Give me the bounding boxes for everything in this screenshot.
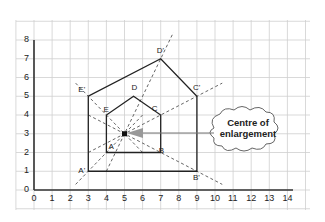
x-tick-label: 5 [122, 194, 127, 203]
x-tick-label: 2 [68, 194, 73, 203]
vertex-label: B' [193, 174, 200, 182]
x-tick-label: 8 [176, 194, 181, 203]
vertex-label: D [132, 84, 138, 92]
callout-text: Centre of enlargement [212, 118, 284, 140]
x-tick-label: 13 [264, 194, 274, 203]
x-tick-label: 3 [86, 194, 91, 203]
vertex-label: A [108, 143, 113, 151]
y-tick-label: 5 [24, 91, 29, 100]
y-tick-label: 2 [24, 148, 29, 157]
y-tick-label: 8 [24, 35, 29, 44]
y-tick-label: 7 [24, 54, 29, 63]
x-tick-label: 14 [282, 194, 292, 203]
x-tick-label: 11 [228, 194, 237, 203]
y-tick-label: 6 [24, 73, 29, 82]
vertex-label: E [103, 106, 108, 114]
x-tick-label: 12 [246, 194, 256, 203]
x-tick-label: 4 [104, 194, 109, 203]
centre-point [122, 131, 127, 136]
y-tick-label: 4 [24, 110, 29, 119]
vertex-label: E' [78, 86, 85, 94]
grid-canvas [0, 0, 325, 222]
x-tick-label: 6 [140, 194, 145, 203]
x-tick-label: 0 [32, 194, 37, 203]
y-tick-label: 1 [24, 166, 29, 175]
x-tick-label: 9 [194, 194, 199, 203]
callout-line-2: enlargement [212, 129, 284, 140]
vertex-label: B [159, 147, 164, 155]
x-tick-label: 1 [50, 194, 55, 203]
y-tick-label: 3 [24, 129, 29, 138]
y-tick-label: 0 [24, 185, 29, 194]
rays [76, 33, 223, 185]
vertex-label: C' [193, 84, 200, 92]
x-tick-label: 7 [158, 194, 163, 203]
enlargement-diagram: 01234567891011121314 012345678 ABCDEA'B'… [0, 0, 325, 222]
vertex-label: C [152, 105, 158, 113]
vertex-label: D' [157, 47, 164, 55]
x-tick-label: 10 [210, 194, 220, 203]
vertex-label: A' [78, 167, 85, 175]
